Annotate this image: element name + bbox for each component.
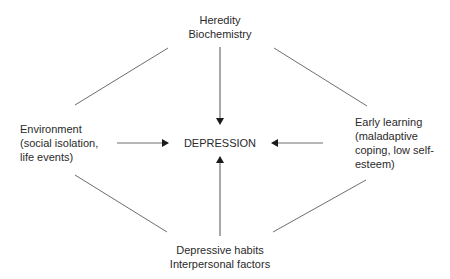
node-depression: DEPRESSION: [170, 136, 270, 150]
edge-bottom-right: [273, 180, 366, 232]
edge-top-left: [75, 48, 168, 105]
node-early-learning: Early learning (maladaptive coping, low …: [355, 115, 450, 171]
node-label: esteem): [355, 157, 450, 171]
edge-top-right: [274, 48, 367, 106]
node-label: Depressive habits: [150, 243, 290, 257]
node-label: Early learning: [355, 115, 450, 129]
node-depressive-habits: Depressive habits Interpersonal factors: [150, 243, 290, 271]
node-label: (social isolation,: [20, 136, 120, 150]
edge-bottom-left: [75, 175, 167, 232]
node-label: Heredity: [160, 13, 280, 27]
node-environment: Environment (social isolation, life even…: [20, 122, 120, 164]
node-label: life events): [20, 150, 120, 164]
node-label: (maladaptive: [355, 129, 450, 143]
node-label: coping, low self-: [355, 143, 450, 157]
node-label: Environment: [20, 122, 120, 136]
node-label: DEPRESSION: [170, 136, 270, 150]
node-label: Interpersonal factors: [150, 257, 290, 271]
node-heredity-biochemistry: Heredity Biochemistry: [160, 13, 280, 41]
node-label: Biochemistry: [160, 27, 280, 41]
